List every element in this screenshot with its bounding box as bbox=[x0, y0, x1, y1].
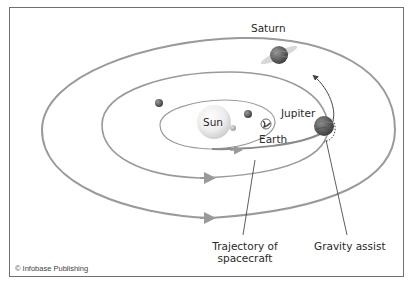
trajectory-label: Trajectory of spacecraft bbox=[210, 240, 280, 264]
copyright-credit: © Infobase Publishing bbox=[15, 264, 88, 273]
trajectory-label-line1: Trajectory of bbox=[210, 240, 280, 252]
earth-icon bbox=[261, 119, 271, 129]
saturn-label: Saturn bbox=[251, 22, 286, 34]
jupiter-icon bbox=[314, 116, 334, 136]
solar-system-diagram: Sun Earth Jupiter Saturn Trajectory of s… bbox=[0, 0, 420, 291]
sun-label: Sun bbox=[203, 116, 223, 128]
mercury-icon bbox=[230, 125, 236, 131]
gravity-assist-label: Gravity assist bbox=[314, 240, 386, 252]
trajectory-leader-line bbox=[243, 160, 255, 235]
venus-icon bbox=[244, 110, 252, 118]
mars-icon bbox=[155, 99, 163, 107]
saturn-icon bbox=[259, 43, 299, 67]
earth-label: Earth bbox=[259, 133, 287, 145]
jupiter-label: Jupiter bbox=[281, 107, 315, 119]
trajectory-label-line2: spacecraft bbox=[210, 252, 280, 264]
gravity-assist-leader-line bbox=[326, 140, 347, 235]
